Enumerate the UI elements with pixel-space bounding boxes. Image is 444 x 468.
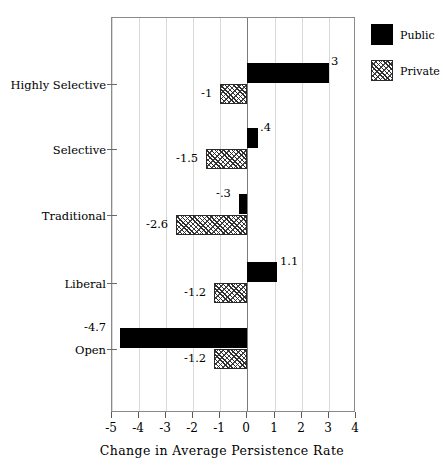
xtick-label-4: 4: [343, 421, 367, 435]
gridline-minus4: [139, 18, 140, 411]
gridline-minus3: [166, 18, 167, 411]
value-label-public-liberal: 1.1: [280, 255, 298, 267]
ytick-open: [107, 349, 117, 350]
xtick-mark-minus3: [165, 412, 166, 418]
xtick-mark-minus1: [219, 412, 220, 418]
xtick-label-2: 2: [289, 421, 313, 435]
category-label-traditional: Traditional: [0, 209, 106, 223]
bar-public-liberal: [247, 262, 277, 282]
legend-label-public: Public: [400, 29, 435, 42]
x-axis-title: Change in Average Persistence Rate: [0, 443, 444, 458]
legend-item-public: Public: [371, 24, 444, 46]
xtick-label-zero: 0: [234, 421, 258, 435]
xtick-label-minus4: -4: [126, 421, 150, 435]
bar-private-selective: [206, 149, 247, 169]
xtick-mark-minus2: [192, 412, 193, 418]
bar-public-highly-selective: [247, 63, 329, 83]
bar-private-liberal: [214, 283, 247, 303]
bar-private-highly-selective: [220, 84, 247, 104]
value-label-private-highly-selective: -1: [201, 87, 212, 99]
xtick-label-minus3: -3: [153, 421, 177, 435]
category-label-highly-selective: Highly Selective: [0, 78, 106, 92]
legend-item-private: Private: [371, 60, 444, 82]
xtick-mark-1: [274, 412, 275, 418]
xtick-mark-zero: [246, 412, 247, 418]
value-label-private-selective: -1.5: [176, 152, 198, 164]
xtick-mark-2: [301, 412, 302, 418]
category-label-liberal: Liberal: [0, 277, 106, 291]
xtick-mark-4: [355, 412, 356, 418]
plot-area: [111, 17, 355, 412]
legend-swatch-private-icon: [371, 60, 393, 81]
xtick-label-3: 3: [316, 421, 340, 435]
xtick-mark-minus4: [138, 412, 139, 418]
xtick-label-minus2: -2: [180, 421, 204, 435]
value-label-public-open: -4.7: [84, 321, 106, 333]
value-label-private-open: -1.2: [184, 352, 206, 364]
category-label-open: Open: [0, 343, 106, 357]
bar-public-open: [120, 328, 247, 348]
ytick-highly-selective: [107, 84, 117, 85]
xtick-label-1: 1: [262, 421, 286, 435]
xtick-label-minus1: -1: [207, 421, 231, 435]
value-label-private-liberal: -1.2: [184, 286, 206, 298]
bar-public-selective: [247, 128, 258, 148]
value-label-public-highly-selective: 3: [331, 55, 338, 67]
bar-public-traditional: [239, 194, 247, 214]
legend-swatch-public-icon: [371, 24, 393, 45]
value-label-public-selective: .4: [260, 121, 271, 133]
legend-label-private: Private: [400, 65, 440, 78]
category-label-selective: Selective: [0, 143, 106, 157]
value-label-private-traditional: -2.6: [146, 218, 168, 230]
bar-chart-figure: 3 -1 .4 -1.5 -.3 -2.6 1.1 -1.2 -4.7 -1.2…: [0, 0, 444, 468]
gridline-3: [329, 18, 330, 411]
ytick-selective: [107, 149, 117, 150]
ytick-traditional: [107, 215, 117, 216]
bar-private-traditional: [176, 215, 247, 235]
ytick-liberal: [107, 283, 117, 284]
xtick-mark-minus5: [111, 412, 112, 418]
chart-legend: Public Private: [371, 24, 444, 96]
bar-private-open: [214, 349, 247, 369]
xtick-mark-3: [328, 412, 329, 418]
xtick-label-minus5: -5: [99, 421, 123, 435]
value-label-public-traditional: -.3: [216, 187, 231, 199]
